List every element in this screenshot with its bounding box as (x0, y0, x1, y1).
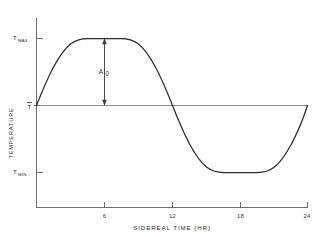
label-tmin-base: T (13, 168, 17, 175)
temperature-sidereal-time-chart: A 0 T MAX T T MIN 6 12 18 24 SIDEREAL TI… (0, 0, 320, 237)
amplitude-label-subscript: 0 (106, 70, 110, 77)
x-tick-label-24: 24 (303, 213, 311, 219)
x-axis-title: SIDEREAL TIME (HR) (133, 224, 211, 231)
y-axis-title: TEMPERATURE (8, 107, 14, 158)
chart-background (0, 0, 320, 237)
x-tick-label-18: 18 (237, 213, 245, 219)
label-tmin-subscript: MIN (18, 172, 26, 177)
label-tmax-subscript: MAX (18, 38, 28, 43)
label-tmean-base: T (28, 103, 32, 110)
chart-figure: A 0 T MAX T T MIN 6 12 18 24 SIDEREAL TI… (0, 0, 320, 237)
label-tmax-base: T (13, 34, 17, 41)
amplitude-label-base: A (99, 68, 104, 75)
x-tick-label-12: 12 (169, 213, 177, 219)
x-tick-label-6: 6 (103, 213, 107, 219)
